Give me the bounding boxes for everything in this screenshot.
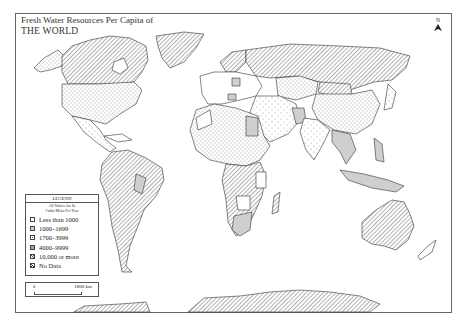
world-map bbox=[0, 0, 462, 327]
swatch-hatch-bold-icon bbox=[30, 263, 35, 268]
legend-item-label: Less than 1000 bbox=[39, 216, 78, 223]
legend-item: 1700–3999 bbox=[30, 233, 98, 242]
legend-item-label: 1000–1699 bbox=[39, 225, 68, 232]
region-scandinavia bbox=[220, 50, 246, 72]
legend-heading: LEGEND bbox=[26, 195, 98, 203]
legend-item: 10,000 or more bbox=[30, 252, 98, 261]
swatch-gray-icon bbox=[30, 226, 35, 231]
title-line-1: Fresh Water Resources Per Capita of bbox=[21, 15, 153, 26]
region-greenland bbox=[156, 32, 204, 68]
legend-item-label: 1700–3999 bbox=[39, 234, 68, 241]
legend: LEGEND All Values Are In Cubic Meter Per… bbox=[25, 194, 99, 276]
region-canada bbox=[62, 36, 148, 84]
legend-items: Less than 1000 1000–1699 1700–3999 4000–… bbox=[26, 215, 98, 270]
title-line-2: THE WORLD bbox=[21, 26, 153, 37]
region-australia bbox=[362, 200, 414, 250]
region-se-asia bbox=[332, 130, 356, 164]
region-new-zealand bbox=[418, 240, 436, 260]
legend-item: 1000–1699 bbox=[30, 224, 98, 233]
legend-subtitle-line-2: Cubic Meter Per Year bbox=[26, 209, 98, 214]
scale-bar-line bbox=[34, 292, 82, 295]
scale-bar: 0 1800 km bbox=[25, 282, 99, 297]
region-egypt bbox=[246, 116, 258, 136]
region-alaska bbox=[34, 50, 64, 72]
legend-subtitle: All Values Are In Cubic Meter Per Year bbox=[26, 204, 98, 214]
region-kazakhstan bbox=[276, 76, 318, 100]
swatch-sparse-dots-icon bbox=[30, 235, 35, 240]
region-south-africa bbox=[232, 212, 252, 236]
scale-start: 0 bbox=[33, 284, 35, 289]
swatch-dense-dots-icon bbox=[30, 245, 35, 250]
north-arrow: N bbox=[431, 17, 445, 31]
region-madagascar bbox=[272, 192, 280, 214]
region-japan bbox=[384, 84, 396, 110]
region-south-america bbox=[100, 150, 164, 272]
scale-end: 1800 km bbox=[74, 284, 92, 289]
north-label: N bbox=[431, 17, 445, 23]
legend-item-label: 4000–9999 bbox=[39, 244, 68, 251]
legend-item-label: No Data bbox=[39, 262, 61, 269]
legend-item: Less than 1000 bbox=[30, 215, 98, 224]
legend-item-label: 10,000 or more bbox=[39, 253, 79, 260]
map-title: Fresh Water Resources Per Capita of THE … bbox=[21, 15, 153, 37]
region-indonesia bbox=[340, 170, 404, 192]
region-antarctica bbox=[74, 302, 150, 312]
swatch-hatch-icon bbox=[30, 254, 35, 259]
region-caribbean bbox=[104, 134, 132, 142]
swatch-blank-icon bbox=[30, 217, 35, 222]
legend-item: No Data bbox=[30, 261, 98, 270]
north-arrow-icon bbox=[434, 24, 442, 31]
legend-item: 4000–9999 bbox=[30, 243, 98, 252]
